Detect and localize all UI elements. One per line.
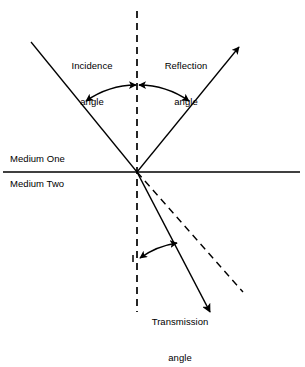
reflection-angle-label-line2: angle: [150, 96, 222, 108]
reflection-angle-label-line1: Reflection: [150, 60, 222, 72]
incidence-angle-label-line2: angle: [57, 96, 127, 108]
medium-one-label: Medium One: [10, 153, 65, 165]
transmitted-ray-line: [137, 172, 210, 312]
reflection-angle-label: Reflection angle: [150, 36, 222, 132]
transmission-angle-label-line1: Transmission: [140, 316, 220, 328]
transmission-angle-arc: [140, 243, 177, 258]
medium-two-label: Medium Two: [10, 178, 64, 190]
transmission-angle-label: Transmission angle: [140, 292, 220, 367]
incidence-angle-label: Incidence angle: [57, 36, 127, 132]
incidence-angle-label-line1: Incidence: [57, 60, 127, 72]
transmission-angle-label-line2: angle: [140, 352, 220, 364]
